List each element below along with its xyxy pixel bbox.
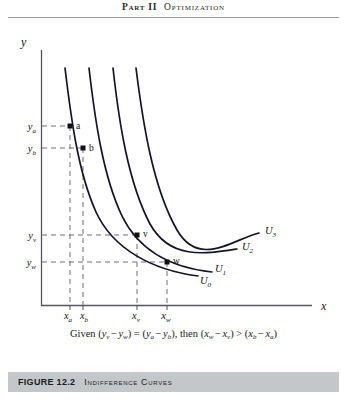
y-tick-sub-yv: v bbox=[33, 236, 37, 244]
indifference-curves bbox=[65, 68, 259, 276]
y-tick-labels: ya yb yv yw bbox=[26, 121, 37, 271]
y-tick-sub-yb: b bbox=[33, 149, 37, 157]
marker-a bbox=[68, 124, 73, 129]
header-rule bbox=[8, 17, 339, 18]
equation-then-word: , then bbox=[175, 328, 198, 339]
equation-t21-sub: b bbox=[253, 333, 257, 341]
guide-lines bbox=[42, 126, 167, 305]
x-axis-label: x bbox=[320, 299, 327, 313]
axes bbox=[41, 50, 312, 306]
x-tick-label-xv: xv bbox=[131, 310, 141, 322]
curve-label-U0: U0 bbox=[200, 275, 212, 289]
equation-t1-close: ) bbox=[230, 328, 234, 339]
running-head: Part IIOptimization bbox=[0, 2, 347, 12]
curve-U1 bbox=[89, 68, 212, 272]
figure-title: Indifference Curves bbox=[84, 377, 172, 387]
y-axis-label: y bbox=[20, 35, 27, 49]
x-tick-label-xb: xb bbox=[79, 310, 89, 322]
equation-t2-close: ) bbox=[274, 328, 278, 339]
marker-b bbox=[81, 146, 86, 151]
x-tick-sub-xw: w bbox=[166, 316, 171, 323]
y-tick-label-yv: yv bbox=[27, 230, 37, 244]
textbook-figure-page: Part IIOptimization bbox=[0, 0, 347, 413]
x-tick-sub-xv: v bbox=[137, 316, 141, 323]
point-label-v: v bbox=[143, 229, 148, 239]
x-tick-sub-xa: a bbox=[69, 316, 73, 323]
point-label-a: a bbox=[76, 121, 81, 131]
equation-minus-2: − bbox=[154, 328, 163, 339]
marker-v bbox=[135, 233, 140, 238]
x-tick-sub-xb: b bbox=[85, 316, 89, 323]
curve-sub-U3: 3 bbox=[272, 231, 277, 239]
curve-labels: U0 U1 U2 U3 bbox=[200, 225, 277, 289]
y-tick-sub-ya: a bbox=[33, 127, 37, 135]
curve-sub-U2: 2 bbox=[250, 247, 254, 255]
x-tick-label-xw: xw bbox=[160, 310, 171, 322]
marker-w bbox=[165, 260, 170, 265]
figure-caption-bar: FIGURE 12.2Indifference Curves bbox=[8, 372, 339, 392]
point-label-b: b bbox=[89, 143, 94, 153]
curve-sub-U1: 1 bbox=[223, 269, 227, 277]
point-label-w: w bbox=[173, 256, 180, 266]
curve-label-U2: U2 bbox=[242, 241, 254, 255]
equation-given-word: Given bbox=[70, 328, 96, 339]
y-tick-sub-yw: w bbox=[31, 263, 36, 271]
figure-equation: Given (yv−yw) = (ya−yb), then (xw−xv) > … bbox=[0, 328, 347, 341]
indifference-curve-figure: a b v w ya yb yv yw bbox=[0, 22, 347, 322]
running-head-part: Part II bbox=[122, 2, 157, 12]
equation-lhs-close: ) bbox=[128, 328, 132, 339]
curve-U3 bbox=[136, 68, 259, 250]
equation-greater: > bbox=[236, 328, 242, 339]
curve-label-U1: U1 bbox=[215, 263, 226, 277]
curve-sub-U0: 0 bbox=[208, 281, 212, 289]
y-tick-label-ya: ya bbox=[27, 121, 37, 135]
running-head-chapter: Optimization bbox=[164, 2, 225, 12]
equation-equals: = bbox=[134, 328, 140, 339]
y-tick-label-yb: yb bbox=[27, 143, 37, 157]
bundle-labels: a b v w bbox=[76, 121, 180, 266]
curve-label-U3: U3 bbox=[265, 225, 277, 239]
x-tick-labels: xa xb xv xw bbox=[63, 310, 171, 322]
y-tick-label-yw: yw bbox=[26, 257, 37, 271]
figure-svg: a b v w ya yb yv yw bbox=[0, 22, 347, 322]
x-tick-label-xa: xa bbox=[63, 310, 73, 322]
figure-number: FIGURE 12.2 bbox=[18, 377, 75, 387]
